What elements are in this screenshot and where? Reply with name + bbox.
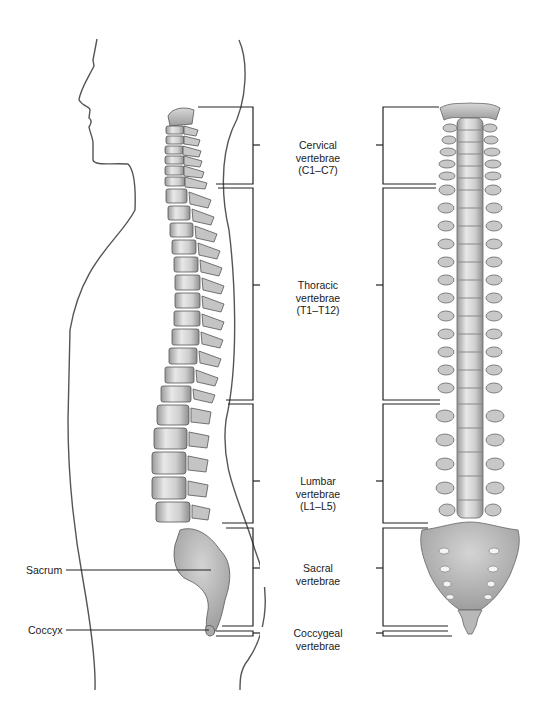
diagram-canvas [0, 0, 549, 723]
lateral-lumbar-vertebrae [152, 405, 211, 522]
label-cervical-line1: Cervical [262, 139, 374, 152]
label-lumbar-line2: vertebrae [262, 488, 374, 501]
label-lumbar-line3: (L1–L5) [262, 500, 374, 513]
lateral-thoracic-vertebrae [161, 189, 224, 403]
posterior-coccyx [458, 610, 482, 634]
label-lumbar-line1: Lumbar [262, 475, 374, 488]
label-sacral: Sacral vertebrae [260, 562, 376, 587]
label-cervical-line2: vertebrae [262, 152, 374, 165]
label-coccygeal-line2: vertebrae [262, 640, 374, 653]
posterior-atlas [440, 103, 500, 120]
lateral-sacrum [174, 529, 230, 635]
label-thoracic-line3: (T1–T12) [262, 304, 374, 317]
label-thoracic-line2: vertebrae [262, 292, 374, 305]
label-coccygeal-line1: Coccygeal [262, 627, 374, 640]
posterior-sacrum [421, 522, 520, 610]
label-coccygeal: Coccygeal vertebrae [260, 627, 376, 652]
posterior-spine [421, 103, 520, 634]
lateral-cervical-vertebrae [165, 108, 207, 189]
label-cervical: Cervical vertebrae (C1–C7) [260, 139, 376, 177]
lateral-coccyx [206, 625, 215, 635]
label-sacrum: Sacrum [26, 564, 62, 576]
label-thoracic: Thoracic vertebrae (T1–T12) [260, 279, 376, 317]
lateral-spine [152, 108, 230, 636]
label-coccyx: Coccyx [28, 624, 62, 636]
vertebral-column-diagram: Cervical vertebrae (C1–C7) Thoracic vert… [0, 0, 549, 723]
label-sacral-line1: Sacral [262, 562, 374, 575]
label-thoracic-line1: Thoracic [262, 279, 374, 292]
label-lumbar: Lumbar vertebrae (L1–L5) [260, 475, 376, 513]
label-cervical-line3: (C1–C7) [262, 164, 374, 177]
label-sacral-line2: vertebrae [262, 575, 374, 588]
